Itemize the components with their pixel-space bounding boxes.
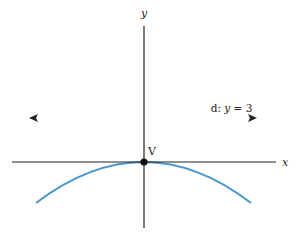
vertex-point (140, 158, 147, 165)
parabola-diagram: y x V d: y = 3 (0, 0, 300, 240)
directrix-label: d: y = 3 (194, 102, 262, 114)
directrix-label-prefix: d: (211, 102, 225, 114)
directrix-label-eq: = 3 (230, 102, 252, 114)
vertex-label: V (147, 145, 157, 158)
y-axis-label: y (140, 7, 148, 20)
x-axis-label: x (282, 156, 289, 169)
